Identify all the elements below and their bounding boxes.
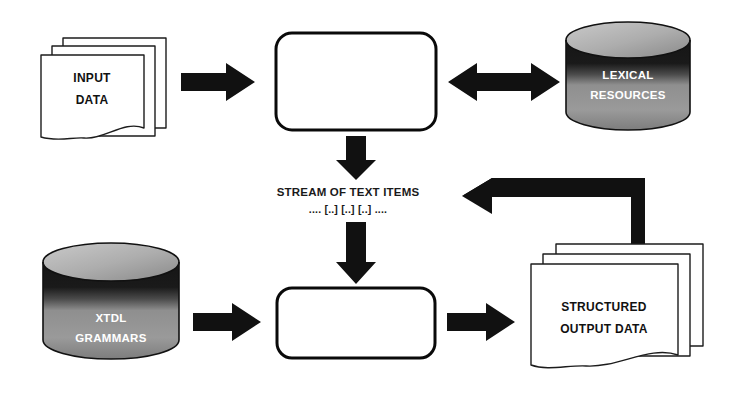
lpr-label-line3: RESOURCES [318,98,394,110]
node-xtdl-grammars[interactable]: XTDL GRAMMARS [43,243,179,359]
input-data-label-line1: INPUT [73,71,111,85]
output-data-label-line2: OUTPUT DATA [560,322,648,336]
architecture-diagram: INPUT DATA LINGUISTIC PROCESSING RESOURC… [0,0,738,405]
output-data-sheet-front [531,264,678,368]
input-data-label-line2: DATA [76,93,109,107]
xtdl-interpreter-label-line2: INTERPRETER [314,329,399,341]
stream-label-line2: .... [..] [..] [..] .... [309,203,387,215]
xtdl-interpreter-label-line1: XTDL [340,307,371,319]
arrow-feedback-vertical-shaft [631,187,645,245]
node-input-data[interactable]: INPUT DATA [41,38,166,139]
xtdl-grammars-label-line2: GRAMMARS [75,332,146,344]
node-structured-output-data[interactable]: STRUCTURED OUTPUT DATA [531,244,703,368]
lpr-label-line1: LINGUISTIC [322,52,390,64]
lpr-label-line2: PROCESSING [316,75,396,87]
xtdl-grammars-label-line1: XTDL [95,312,126,324]
output-data-label-line1: STRUCTURED [561,300,647,314]
node-lexical-resources[interactable]: LEXICAL RESOURCES [566,22,690,130]
lexical-resources-label-line1: LEXICAL [602,69,653,81]
lexical-resources-label-line2: RESOURCES [590,89,666,101]
diagram-canvas: INPUT DATA LINGUISTIC PROCESSING RESOURC… [0,0,738,405]
stream-label-line1: STREAM OF TEXT ITEMS [277,186,420,198]
arrow-feedback-horizontal-shaft [489,187,631,197]
